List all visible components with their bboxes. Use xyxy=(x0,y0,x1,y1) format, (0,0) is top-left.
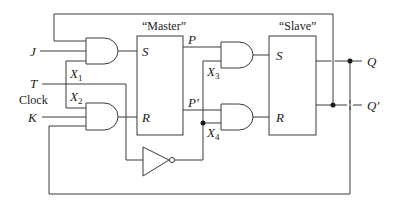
and-gate-x3 xyxy=(221,42,253,68)
x3-label: X3 xyxy=(206,64,220,81)
and-gate-k xyxy=(86,103,118,130)
x2-label: X2 xyxy=(69,89,82,106)
master-r-label: R xyxy=(141,110,150,125)
k-label: K xyxy=(27,110,38,125)
flip-flop-diagram: “Master” “Slave” J T Clock K X1 X2 X3 X4… xyxy=(0,0,394,206)
q-prime-output-label: Q′ xyxy=(367,98,379,113)
slave-s-label: S xyxy=(276,48,283,63)
not-bubble xyxy=(170,158,175,163)
master-p-prime-label: P′ xyxy=(187,95,199,110)
clock-label: Clock xyxy=(19,93,48,107)
master-title: “Master” xyxy=(142,19,186,33)
j-label: J xyxy=(30,44,37,59)
t-label: T xyxy=(30,76,38,91)
q-prime-junction-dot xyxy=(331,103,336,108)
x1-label: X1 xyxy=(69,66,82,83)
and-gate-x4 xyxy=(221,104,253,130)
x4-label: X4 xyxy=(206,125,220,142)
slave-title: “Slave” xyxy=(279,19,316,33)
master-p-label: P xyxy=(187,32,196,47)
and-gate-j xyxy=(86,38,118,64)
master-s-label: S xyxy=(142,44,149,59)
not-gate-clock xyxy=(143,147,169,176)
q-junction-dot xyxy=(348,59,353,64)
x4-junction-dot xyxy=(201,121,206,126)
slave-r-label: R xyxy=(275,110,284,125)
q-output-label: Q xyxy=(367,54,377,69)
